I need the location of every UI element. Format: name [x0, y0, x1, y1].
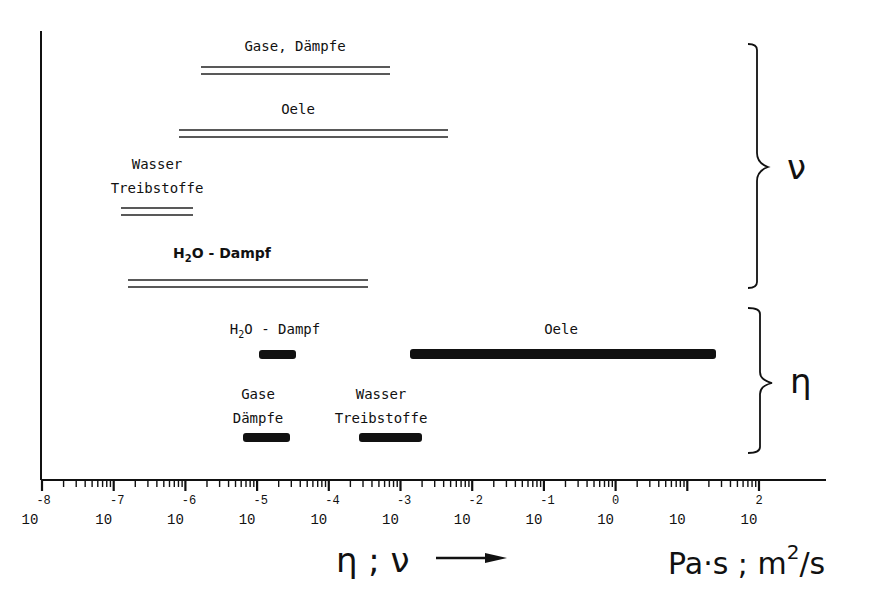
x-tick-label: 102	[741, 512, 758, 528]
nu-range-h2o-dampf	[128, 280, 368, 287]
eta-bar-wasser-treibstoffe	[359, 433, 422, 442]
x-tick-label: 100	[597, 512, 614, 528]
label-eta-h2o-dampf: H2O - Dampf	[230, 321, 320, 343]
label-nu-wasser: Wasser	[132, 156, 183, 172]
label-nu-h2o-dampf: H2O - Dampf	[173, 245, 271, 267]
label-eta-oele: Oele	[544, 321, 578, 337]
nu-range-oele	[179, 130, 448, 137]
x-tick-label: 10-5	[239, 512, 256, 528]
label-eta-wasser: Wasser	[356, 386, 407, 402]
label-eta-treibstoffe: Treibstoffe	[335, 410, 428, 426]
x-tick-label: 10-4	[310, 512, 327, 528]
eta-bar-oele	[410, 349, 716, 359]
x-tick-label: 10-3	[382, 512, 399, 528]
eta-bar-gase-daempfe	[243, 433, 290, 442]
label-nu-treibstoffe: Treibstoffe	[111, 180, 204, 196]
brace-label-nu: ν	[787, 150, 806, 184]
x-tick-label: 10-6	[167, 512, 184, 528]
x-tick-label: 10	[669, 512, 686, 528]
x-tick-label: 10-2	[454, 512, 471, 528]
eta-bar-h2o-dampf	[259, 350, 296, 359]
label-eta-daempfe: Dämpfe	[233, 410, 284, 426]
label-eta-gase: Gase	[241, 386, 275, 402]
brace-label-eta: η	[790, 364, 812, 398]
x-axis-title: η ; ν	[336, 540, 410, 580]
x-tick-label: 10-7	[95, 512, 112, 528]
x-tick-label: 10-8	[22, 512, 39, 528]
x-tick-label: 10-1	[525, 512, 542, 528]
x-axis-units: Pa·s ; m2/s	[668, 544, 825, 581]
label-nu-gase-daempfe: Gase, Dämpfe	[244, 38, 345, 54]
arrow-right-icon	[485, 553, 507, 563]
nu-range-wasser-treibstoffe	[121, 208, 193, 215]
brace-nu-icon	[748, 44, 768, 288]
brace-eta-icon	[748, 308, 772, 453]
x-axis-ticks	[42, 480, 759, 491]
label-nu-oele: Oele	[281, 101, 315, 117]
nu-range-gase-daempfe	[201, 67, 390, 74]
